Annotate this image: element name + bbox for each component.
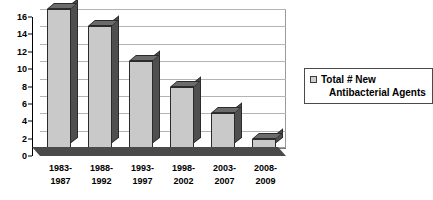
x-axis-label-line2: 1997	[132, 176, 152, 186]
bar-chart: 0246810121416 1983-19871988-19921993-199…	[0, 0, 433, 200]
x-axis-label: 2003-2007	[204, 162, 245, 188]
chart-legend: Total # New Antibacterial Agents	[304, 68, 433, 104]
x-axis-label-line1: 1988-	[90, 163, 113, 173]
x-axis-label-line2: 2002	[173, 176, 193, 186]
legend-swatch-icon	[310, 76, 317, 83]
y-axis-tick-label: 6	[22, 99, 27, 108]
bar-front-face	[88, 26, 112, 148]
y-axis-tick-mark	[28, 51, 32, 52]
chart-floor-surface	[32, 147, 286, 156]
y-axis-tick-label: 14	[17, 30, 27, 39]
bar-side-face	[194, 77, 201, 143]
y-axis-tick-mark	[28, 34, 32, 35]
y-axis-tick-label: 12	[17, 47, 27, 56]
x-axis-label-line2: 2007	[214, 176, 234, 186]
value-axis-line	[32, 17, 33, 156]
y-axis-tick-mark	[28, 86, 32, 87]
x-axis-label: 1998-2002	[163, 162, 204, 188]
bar-side-face	[112, 16, 119, 143]
bar-front-face	[170, 87, 194, 148]
x-axis-label-line2: 1987	[50, 176, 70, 186]
x-axis-label-line2: 2009	[255, 176, 275, 186]
x-axis-label-line1: 2008-	[254, 163, 277, 173]
bar-front-face	[129, 61, 153, 148]
x-axis-label-line1: 2003-	[213, 163, 236, 173]
bar	[47, 9, 71, 148]
x-axis-label-line2: 1992	[91, 176, 111, 186]
bar	[129, 61, 153, 148]
y-axis-tick-mark	[28, 69, 32, 70]
plot-area: 0246810121416	[32, 9, 286, 156]
bar	[211, 113, 235, 148]
y-axis-tick-mark	[28, 17, 32, 18]
x-axis-label-line1: 1993-	[131, 163, 154, 173]
y-axis-tick-mark	[28, 138, 32, 139]
x-axis-label-line1: 1998-	[172, 163, 195, 173]
y-axis-tick-label: 10	[17, 65, 27, 74]
bar-side-face	[71, 0, 78, 143]
y-axis-tick-label: 16	[17, 13, 27, 22]
bar-side-face	[153, 51, 160, 143]
x-axis-label: 1983-1987	[40, 162, 81, 188]
bar-front-face	[211, 113, 235, 148]
legend-label-line2: Antibacterial Agents	[321, 86, 426, 99]
chart-floor	[32, 147, 286, 156]
legend-item: Total # New Antibacterial Agents	[310, 73, 426, 99]
bar	[170, 87, 194, 148]
y-axis-tick-mark	[28, 121, 32, 122]
y-axis-tick-label: 2	[22, 134, 27, 143]
x-axis-label-line1: 1983-	[49, 163, 72, 173]
legend-label: Total # New Antibacterial Agents	[321, 73, 426, 99]
bar-front-face	[47, 9, 71, 148]
y-axis-tick-label: 4	[22, 117, 27, 126]
bar-series	[40, 9, 286, 148]
y-axis-tick-label: 8	[22, 82, 27, 91]
x-axis-label: 1988-1992	[81, 162, 122, 188]
x-axis-labels: 1983-19871988-19921993-19971998-20022003…	[40, 162, 286, 196]
x-axis-label: 2008-2009	[245, 162, 286, 188]
legend-label-line1: Total # New	[321, 74, 376, 85]
bar	[88, 26, 112, 148]
x-axis-label: 1993-1997	[122, 162, 163, 188]
y-axis-tick-label: 0	[22, 152, 27, 161]
y-axis-tick-mark	[28, 103, 32, 104]
